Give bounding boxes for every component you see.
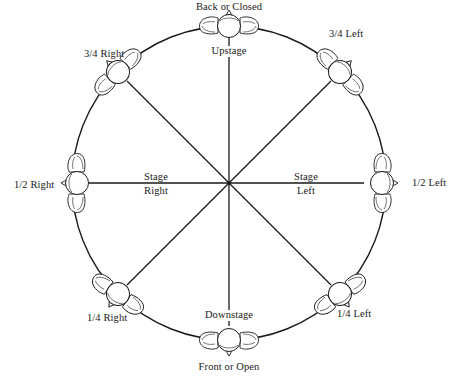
stage-body-positions-diagram <box>0 0 453 379</box>
label-quarter-left: 1/4 Left <box>337 309 371 320</box>
center-point <box>227 181 231 185</box>
figure-back-icon <box>199 10 258 38</box>
label-half-left: 1/2 Left <box>412 178 446 189</box>
label-quarter-right: 1/4 Right <box>87 313 127 324</box>
label-stage-right-line2: Right <box>144 186 168 197</box>
figure-half-left-icon <box>371 153 399 212</box>
label-stage-left-line1: Stage <box>294 172 318 183</box>
label-back-or-closed: Back or Closed <box>196 2 262 13</box>
spokes <box>89 38 364 326</box>
label-stage-left-line2: Left <box>297 186 315 197</box>
label-front-or-open: Front or Open <box>199 362 260 373</box>
label-upstage: Upstage <box>209 46 248 57</box>
figure-front-icon <box>199 329 258 357</box>
label-downstage: Downstage <box>203 310 255 321</box>
label-half-right: 1/2 Right <box>14 180 54 191</box>
label-three-quarter-right: 3/4 Right <box>84 49 124 60</box>
spoke-three-quarter-right <box>127 81 229 183</box>
figure-half-right-icon <box>61 153 89 212</box>
label-three-quarter-left: 3/4 Left <box>329 29 363 40</box>
label-stage-right-line1: Stage <box>144 172 168 183</box>
spoke-quarter-right <box>127 183 229 285</box>
spoke-quarter-left <box>229 183 331 285</box>
spoke-three-quarter-left <box>229 81 331 183</box>
